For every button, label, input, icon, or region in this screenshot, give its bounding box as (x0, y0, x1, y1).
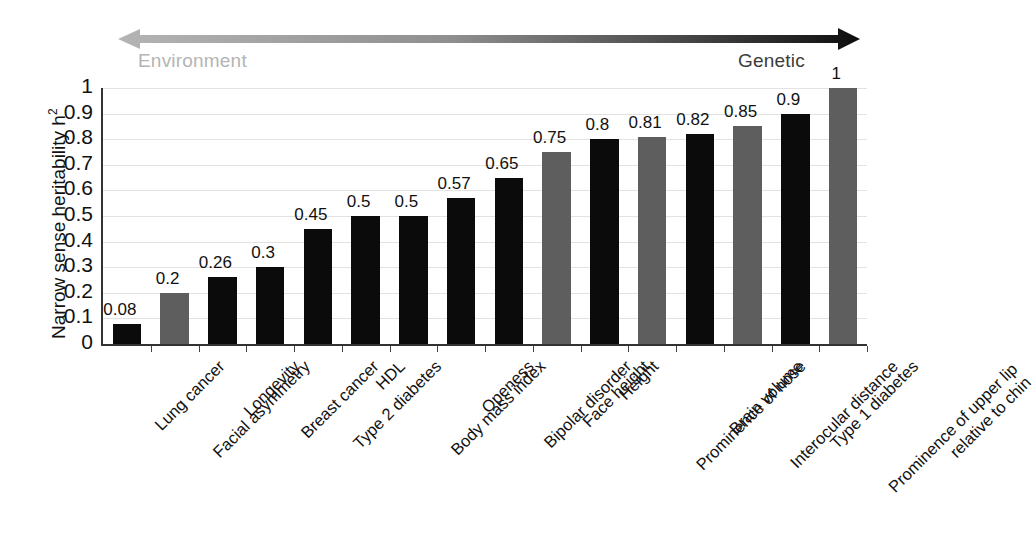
x-axis-label-line: Lung cancer (150, 357, 227, 434)
x-axis-tick (581, 346, 582, 352)
bar-value-label: 1 (804, 64, 868, 84)
y-axis-tick-label: 0.3 (35, 254, 93, 275)
bar (733, 126, 762, 344)
bar-value-label: 0.57 (422, 174, 486, 194)
y-axis-tick-label: 0 (35, 331, 93, 352)
x-axis-tick (390, 346, 391, 352)
bar-value-label: 0.3 (231, 243, 295, 263)
bar (590, 139, 619, 344)
x-axis-tick (199, 346, 200, 352)
bar (113, 324, 142, 344)
bar (542, 152, 571, 344)
bar (256, 267, 285, 344)
y-axis-tick-label: 0.5 (35, 203, 93, 224)
plot-area (101, 88, 867, 346)
x-axis-tick (485, 346, 486, 352)
bar (399, 216, 428, 344)
x-axis-tick (533, 346, 534, 352)
bar (208, 277, 237, 344)
y-axis-tick-label: 0.4 (35, 229, 93, 250)
x-axis-tick (724, 346, 725, 352)
bar-value-label: 0.9 (757, 90, 821, 110)
x-axis-tick (867, 346, 868, 352)
y-axis-tick-label: 0.2 (35, 280, 93, 301)
bar (447, 198, 476, 344)
bar (781, 114, 810, 344)
x-axis-category-label: Brain volume (725, 357, 807, 439)
bar (160, 293, 189, 344)
x-axis-tick (819, 346, 820, 352)
x-axis-label-line: Brain volume (725, 357, 806, 438)
y-axis-tick-label: 0.6 (35, 177, 93, 198)
x-axis-tick (676, 346, 677, 352)
environment-genetic-gradient-arrow (118, 26, 860, 52)
bar-value-label: 0.5 (375, 192, 439, 212)
bar (495, 178, 524, 344)
bar (351, 216, 380, 344)
bar (304, 229, 333, 344)
x-axis-category-label: Bipolar disorder (540, 357, 635, 452)
bar (638, 137, 667, 344)
x-axis-tick (294, 346, 295, 352)
y-axis-tick-label: 0.1 (35, 305, 93, 326)
x-axis-tick (772, 346, 773, 352)
y-axis-tick-label: 1 (35, 75, 93, 96)
environment-pole-label: Environment (138, 50, 247, 72)
bar (829, 88, 858, 344)
genetic-pole-label: Genetic (738, 50, 805, 72)
y-axis-tick-label: 0.9 (35, 101, 93, 122)
bar (686, 134, 715, 344)
x-axis-tick (246, 346, 247, 352)
y-axis-tick-label: 0.8 (35, 126, 93, 147)
x-axis-tick (342, 346, 343, 352)
x-axis-tick (151, 346, 152, 352)
gridline (103, 88, 867, 89)
bar-value-label: 0.65 (470, 154, 534, 174)
x-axis-label-line: relative to chin (898, 373, 1035, 510)
x-axis-label-line: Bipolar disorder (540, 357, 634, 451)
x-axis-tick (437, 346, 438, 352)
bar-value-label: 0.08 (88, 300, 152, 320)
x-axis-tick (628, 346, 629, 352)
x-axis-category-label: Lung cancer (150, 357, 228, 435)
y-axis-tick-label: 0.7 (35, 152, 93, 173)
